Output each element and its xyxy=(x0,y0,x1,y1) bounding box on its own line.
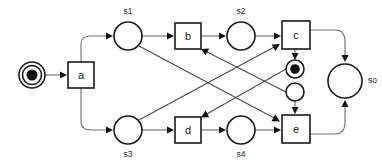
arc-s4-to-e xyxy=(255,127,281,134)
transition-a[interactable]: a xyxy=(68,62,94,88)
transition-label-e: e xyxy=(293,123,299,135)
place-s1[interactable] xyxy=(114,22,142,50)
transition-d[interactable]: d xyxy=(175,117,201,143)
arc-d-to-s4 xyxy=(201,127,226,134)
arc-init-to-a xyxy=(45,72,67,79)
arc-c-to-so xyxy=(310,30,349,62)
token xyxy=(290,64,300,74)
place-label-s1: s1 xyxy=(124,6,133,16)
place-label-s2: s2 xyxy=(237,6,246,16)
place-s3[interactable] xyxy=(114,116,142,144)
place-label-s4: s4 xyxy=(237,149,246,159)
place-label-so: so xyxy=(368,75,377,85)
arc-e-to-so xyxy=(310,100,349,134)
arc-b-to-s2 xyxy=(201,33,226,40)
token xyxy=(27,70,38,81)
arc-s2-to-c xyxy=(255,33,281,40)
diagram-canvas: s1 s2 s3 s4 so xyxy=(0,0,382,167)
arc-midbottom-to-e xyxy=(292,101,299,114)
arc-c-to-midtop xyxy=(292,49,299,60)
transition-layer: a b c d e xyxy=(68,21,310,143)
arc-midtop-to-d xyxy=(201,69,286,118)
place-mid-top[interactable] xyxy=(286,60,304,78)
transition-label-b: b xyxy=(185,30,191,42)
transition-e[interactable]: e xyxy=(282,115,310,143)
arc-s3-to-d xyxy=(142,127,174,134)
place-s2[interactable] xyxy=(227,22,255,50)
transition-label-c: c xyxy=(293,29,299,41)
place-label-s3: s3 xyxy=(124,149,133,159)
arc-s3-to-c xyxy=(139,44,280,120)
transition-label-d: d xyxy=(185,124,191,136)
place-initial[interactable] xyxy=(19,62,45,88)
place-so[interactable] xyxy=(328,64,362,98)
arc-a-to-s3 xyxy=(81,88,113,134)
petri-net-svg: s1 s2 s3 s4 so xyxy=(0,0,382,167)
arc-s1-to-e xyxy=(139,46,280,122)
transition-b[interactable]: b xyxy=(175,23,201,49)
place-s4[interactable] xyxy=(227,116,255,144)
transition-c[interactable]: c xyxy=(282,21,310,49)
place-mid-bottom[interactable] xyxy=(286,83,304,101)
arc-s1-to-b xyxy=(142,33,174,40)
arc-a-to-s1 xyxy=(81,33,113,63)
transition-label-a: a xyxy=(78,69,85,81)
